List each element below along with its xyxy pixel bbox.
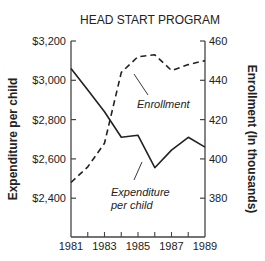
x-tick-label: 1981 — [59, 240, 83, 252]
enrollment-annotation: Enrollment — [137, 98, 191, 110]
left-axis-ticks: $3,200$3,000$2,800$2,600$2,400 — [32, 35, 76, 204]
x-tick-label: 1983 — [92, 240, 116, 252]
x-tick-label: 1987 — [159, 240, 183, 252]
chart-container: HEAD START PROGRAM $3,200$3,000$2,800$2,… — [0, 0, 265, 261]
right-tick-label: 440 — [209, 74, 227, 86]
left-tick-label: $3,000 — [32, 74, 66, 86]
left-tick-label: $2,800 — [32, 114, 66, 126]
right-tick-label: 460 — [209, 35, 227, 47]
chart-svg: HEAD START PROGRAM $3,200$3,000$2,800$2,… — [0, 0, 265, 261]
left-tick-label: $2,600 — [32, 153, 66, 165]
enrollment-leader-line — [134, 74, 148, 95]
y-right-title: Enrollment (In thousands) — [245, 65, 259, 214]
left-tick-label: $3,200 — [32, 35, 66, 47]
x-tick-label: 1985 — [126, 240, 150, 252]
x-tick-label: 1989 — [193, 240, 217, 252]
expenditure-annotation-line1: Expenditure — [111, 186, 170, 198]
right-tick-label: 380 — [209, 192, 227, 204]
y-left-title: Expenditure per child — [6, 78, 20, 201]
right-tick-label: 420 — [209, 114, 227, 126]
chart-title: HEAD START PROGRAM — [80, 13, 220, 27]
expenditure-leader-line — [134, 162, 142, 180]
expenditure-annotation-line2: per child — [110, 199, 153, 211]
expenditure-line — [71, 69, 205, 168]
x-axis-ticks: 19811983198519871989 — [59, 232, 217, 252]
right-tick-label: 400 — [209, 153, 227, 165]
left-tick-label: $2,400 — [32, 192, 66, 204]
enrollment-line — [71, 55, 205, 183]
